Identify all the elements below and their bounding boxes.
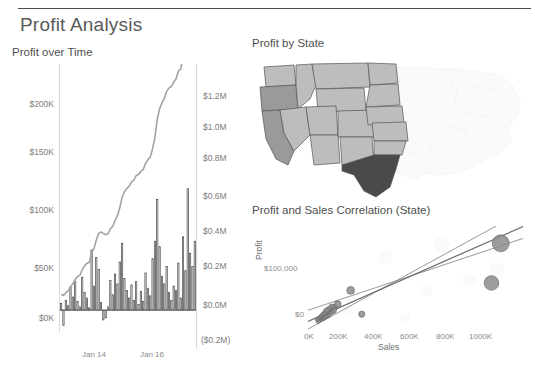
y-right-tick-0: $1.2M [203,91,227,101]
bar [117,284,118,310]
bar [82,277,83,310]
bar [152,259,153,310]
y-axis-right-line [196,64,197,349]
bar [112,295,113,310]
bar [147,288,148,310]
x-tick-jan16: Jan 16 [140,350,164,359]
x-tick-jan14: Jan 14 [82,350,106,359]
y-right-tick-5: $0.2M [203,261,227,271]
state-oklahoma [374,141,406,155]
bar [192,266,193,310]
bar [124,278,125,310]
bar [138,305,139,310]
ghost-marks-group [341,237,505,323]
panel-title-profit-over-time: Profit over Time [12,46,93,58]
bar [70,287,71,310]
scatter-point [359,311,365,317]
scatter-point [492,235,509,252]
bar [136,282,137,310]
scatter-x-tick-3: 600K [400,332,419,341]
bar [182,237,183,310]
state-south-dakota [366,84,400,107]
bar [63,310,64,325]
state-arizona [310,135,340,165]
bar [107,307,108,310]
scatter-x-tick-2: 400K [364,332,383,341]
bar [121,243,122,310]
scatter-point [484,276,499,291]
bar [161,276,162,310]
bar [91,250,92,310]
map-profit-by-state[interactable] [250,55,535,200]
bar [166,266,167,310]
chart-profit-sales-correlation[interactable]: Profit $100,000 $0 0K 200K 400K 600K 800… [250,220,535,370]
bar [143,301,144,310]
bar [77,301,78,310]
bar [68,306,69,310]
scatter-plot-area [308,226,523,330]
y-right-tick-6: $0.0M [203,300,227,310]
running-total-line [61,64,195,295]
scatter-y-tick-0: $0 [295,310,304,319]
scatter-x-tick-1: 200K [329,332,348,341]
bar [119,262,120,310]
bar [140,292,141,311]
bar [175,290,176,310]
bar [65,300,66,310]
bar [105,310,106,318]
bar [72,297,73,310]
y-right-tick-1: $1.0M [203,122,227,132]
panel-title-profit-by-state: Profit by State [252,37,324,49]
ghost-mark [490,263,504,277]
bar [93,286,94,310]
bar [194,241,195,310]
chart-profit-over-time[interactable]: $200K $150K $100K $50K $0K $1.2M $1.0M $… [0,60,250,370]
bar [180,298,181,310]
panel-title-correlation: Profit and Sales Correlation (State) [252,204,430,216]
state-kansas [372,122,408,141]
bar [129,298,130,310]
bar [159,247,160,310]
page-title: Profit Analysis [20,14,142,36]
bar [187,189,188,310]
ghost-mark [378,250,392,264]
bar [164,284,165,310]
state-utah [306,106,338,135]
bars-group [61,189,196,326]
state-north-dakota [368,63,398,85]
header-divider [18,8,531,9]
scatter-x-tick-5: 1000K [469,332,492,341]
y-right-tick-2: $0.8M [203,153,227,163]
y-right-tick-3: $0.6M [203,191,227,201]
bar [103,310,104,320]
x-axis-label-sales: Sales [378,342,399,352]
bar [150,296,151,310]
bar [114,274,115,310]
ghost-mark [420,285,432,297]
y-left-tick-1: $150K [4,147,54,157]
bar [61,304,62,311]
bar [185,271,186,310]
bar [173,286,174,310]
bar [75,282,76,310]
state-oregon [260,85,298,111]
scatter-point [347,287,355,295]
bar [98,270,99,310]
y-left-tick-3: $50K [4,263,54,273]
bar [126,290,127,310]
scatter-x-tick-4: 800K [436,332,455,341]
trend-line [308,238,523,310]
state-washington [264,65,296,87]
ghost-mark [462,273,476,287]
bar [96,258,97,311]
bar [145,273,146,310]
state-montana [312,63,370,89]
scatter-point [315,317,319,321]
bar [171,300,172,310]
bar [133,300,134,310]
y-left-tick-4: $0K [4,313,54,323]
y-axis-label-profit: Profit [254,240,264,260]
bar [131,285,132,310]
bar [154,241,155,310]
bar [178,263,179,310]
